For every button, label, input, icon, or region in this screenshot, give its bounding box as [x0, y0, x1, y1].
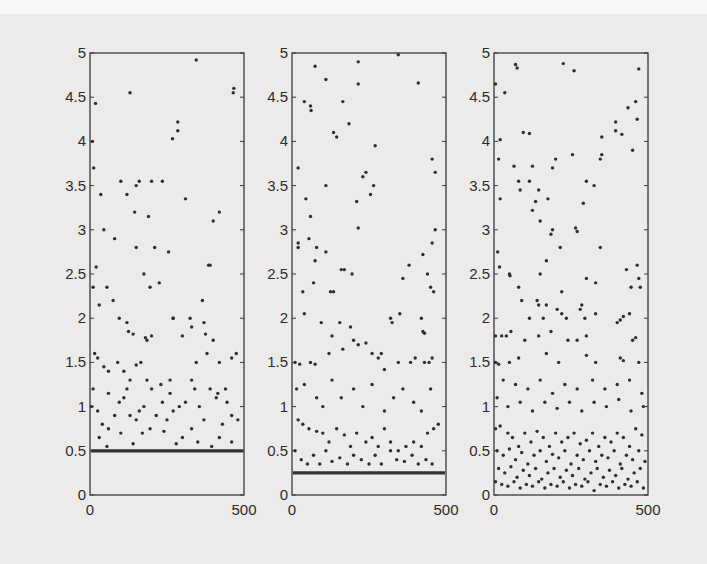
panel-3-data-point	[494, 480, 497, 483]
panel-3-ytick-label: 1.5	[469, 353, 490, 370]
panel-2-data-point	[327, 352, 330, 355]
panel-3-data-point	[505, 334, 508, 337]
panel-2-data-point	[364, 440, 367, 443]
panel-1-data-point	[135, 184, 138, 187]
panel-1-data-point	[128, 414, 131, 417]
panel-1-ytick-label: 3.5	[65, 177, 86, 194]
panel-2-data-point	[383, 409, 386, 412]
panel-1-data-point	[128, 91, 131, 94]
panel-3-data-point	[526, 462, 529, 465]
panel-1-ytick-label: 3	[78, 221, 86, 238]
panel-1-ytick-label: 1	[78, 398, 86, 415]
panel-2-data-point	[383, 368, 386, 371]
panel-1-data-point	[92, 166, 95, 169]
panel-1-ytick-label: 0.5	[65, 442, 86, 459]
panel-3-xtick-label: 0	[490, 501, 498, 518]
panel-3-data-point	[551, 228, 554, 231]
panel-2-data-point	[355, 200, 358, 203]
panel-1-data-point	[196, 440, 199, 443]
panel-1-data-point	[150, 334, 153, 337]
panel-3-data-point	[617, 486, 620, 489]
panel-3-data-point	[609, 440, 612, 443]
panel-3-data-point	[554, 157, 557, 160]
panel-3-data-point	[616, 383, 619, 386]
panel-3-data-point	[540, 477, 543, 480]
panel-3-data-point	[619, 318, 622, 321]
panel-2-data-point	[423, 361, 426, 364]
panel-3-data-point	[589, 471, 592, 474]
panel-3-data-point	[594, 460, 597, 463]
panel-1-data-point	[161, 179, 164, 182]
panel-3-data-point	[562, 480, 565, 483]
panel-3-data-point	[580, 303, 583, 306]
panel-1-data-point	[155, 414, 158, 417]
panel-3-axes-frame	[494, 53, 648, 495]
panel-1-data-point	[98, 436, 101, 439]
panel-2-data-point	[350, 272, 353, 275]
panel-3-data-point	[628, 445, 631, 448]
panel-2-data-point	[324, 250, 327, 253]
panel-2-data-point	[324, 184, 327, 187]
panel-2-data-point	[293, 449, 296, 452]
panel-1-data-point	[142, 272, 145, 275]
panel-3-data-point	[531, 409, 534, 412]
panel-2-data-point	[389, 317, 392, 320]
panel-3-data-point	[503, 471, 506, 474]
panel-2-data-point	[380, 462, 383, 465]
panel-1-data-point	[138, 179, 141, 182]
panel-2-data-point	[401, 277, 404, 280]
panel-3-data-point	[525, 483, 528, 486]
panel-3-ytick-label: 4	[482, 132, 490, 149]
panel-3-data-point	[620, 133, 623, 136]
panel-2-ytick-label: 0.5	[267, 442, 288, 459]
panel-2-data-point	[296, 241, 299, 244]
panel-1-data-point	[148, 286, 151, 289]
panel-1-data-point	[205, 352, 208, 355]
panel-2-data-point	[417, 462, 420, 465]
panel-2-data-point	[430, 157, 433, 160]
panel-3-data-point	[508, 447, 511, 450]
panel-3-data-point	[545, 303, 548, 306]
panel-2-data-point	[321, 431, 324, 434]
panel-1-data-point	[181, 334, 184, 337]
panel-2-data-point	[360, 458, 363, 461]
panel-3-data-point	[640, 392, 643, 395]
panel-1-data-point	[141, 431, 144, 434]
panel-3-data-point	[514, 458, 517, 461]
panel-2-data-point	[307, 427, 310, 430]
panel-3-data-point	[497, 467, 500, 470]
panel-3-data-point	[508, 274, 511, 277]
panel-1-data-point	[218, 436, 221, 439]
panel-3-data-point	[555, 484, 558, 487]
panel-1-data-point	[230, 414, 233, 417]
panel-2-data-point	[341, 100, 344, 103]
panel-3-data-point	[572, 69, 575, 72]
panel-3-data-point	[500, 483, 503, 486]
panel-2-data-point	[395, 458, 398, 461]
panel-2-data-point	[315, 246, 318, 249]
panel-1-data-point	[216, 392, 219, 395]
panel-2-data-point	[389, 449, 392, 452]
panel-2-data-point	[355, 431, 358, 434]
panel-2-data-point	[347, 122, 350, 125]
panel-2-data-point	[309, 215, 312, 218]
panel-3-data-point	[502, 378, 505, 381]
panel-2-data-point	[372, 184, 375, 187]
panel-1-data-point	[215, 396, 218, 399]
panel-1-data-point	[159, 383, 162, 386]
panel-3-data-point	[494, 334, 497, 337]
panel-2-data-point	[432, 427, 435, 430]
panel-3-data-point	[620, 467, 623, 470]
panel-2-data-point	[313, 362, 316, 365]
panel-2-data-point	[296, 166, 299, 169]
panel-2-data-point	[303, 383, 306, 386]
panel-3-data-point	[636, 118, 639, 121]
panel-2-data-point	[420, 317, 423, 320]
panel-3-data-point	[583, 477, 586, 480]
panel-2-data-point	[349, 325, 352, 328]
panel-3-data-point	[565, 469, 568, 472]
panel-1-data-point	[111, 299, 114, 302]
panel-2-data-point	[306, 462, 309, 465]
panel-1-data-point	[171, 317, 174, 320]
panel-2-data-point	[401, 387, 404, 390]
